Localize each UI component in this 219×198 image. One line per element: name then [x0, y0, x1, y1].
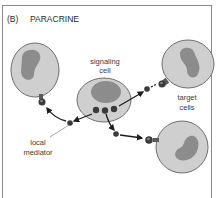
vesicle [111, 106, 117, 112]
signaling-cell [77, 78, 131, 122]
paracrine-diagram: (B) PARACRINE [0, 0, 219, 198]
signaling-cell-label-1: signaling [90, 57, 120, 66]
local-mediator-label-2: mediator [23, 148, 53, 157]
mediator-molecule [144, 86, 150, 92]
local-mediator-label-1: local [30, 138, 46, 147]
receptor-top-left [39, 94, 46, 106]
target-cells-label-2: cells [179, 103, 194, 112]
target-cell-bottom-right [156, 121, 208, 173]
mediator-molecule [67, 120, 73, 126]
vesicle [102, 107, 108, 113]
panel-title: PARACRINE [30, 14, 79, 24]
mediator-leader-line [50, 125, 69, 137]
target-cells-label-1: target [177, 93, 197, 102]
panel-letter: (B) [7, 14, 19, 24]
vesicle [93, 107, 99, 113]
mediator-molecule [113, 131, 119, 137]
nucleus-icon [91, 81, 121, 103]
signaling-cell-label-2: cell [99, 66, 111, 75]
target-cell-top-right [162, 40, 214, 88]
target-cell-top-left [11, 43, 59, 97]
